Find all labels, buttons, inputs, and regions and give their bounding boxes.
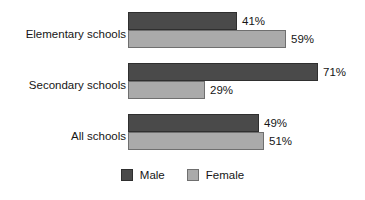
bar-all-female: [128, 132, 264, 150]
legend-item-female: Female: [187, 169, 244, 181]
bar-value-elementary-female: 59%: [286, 30, 314, 48]
legend-label-female: Female: [206, 169, 244, 181]
bar-value-all-male: 49%: [259, 114, 287, 132]
bar-secondary-female: [128, 81, 205, 99]
bar-value-secondary-male: 71%: [318, 63, 346, 81]
bar-elementary-male: [128, 12, 237, 30]
legend-label-male: Male: [140, 169, 165, 181]
legend-item-male: Male: [121, 169, 165, 181]
legend-swatch-female-icon: [187, 169, 199, 181]
category-label-secondary-schools: Secondary schools: [0, 79, 126, 92]
legend-swatch-male-icon: [121, 169, 133, 181]
bar-secondary-male: [128, 63, 318, 81]
bar-value-all-female: 51%: [264, 132, 292, 150]
bar-value-elementary-male: 41%: [237, 12, 265, 30]
bar-value-secondary-female: 29%: [205, 81, 233, 99]
chart-legend: Male Female: [0, 166, 365, 184]
category-label-all-schools: All schools: [0, 130, 126, 143]
bar-chart: Elementary schools 41% 59% Secondary sch…: [0, 0, 365, 200]
bar-all-male: [128, 114, 259, 132]
category-label-elementary-schools: Elementary schools: [0, 28, 126, 41]
bar-elementary-female: [128, 30, 286, 48]
